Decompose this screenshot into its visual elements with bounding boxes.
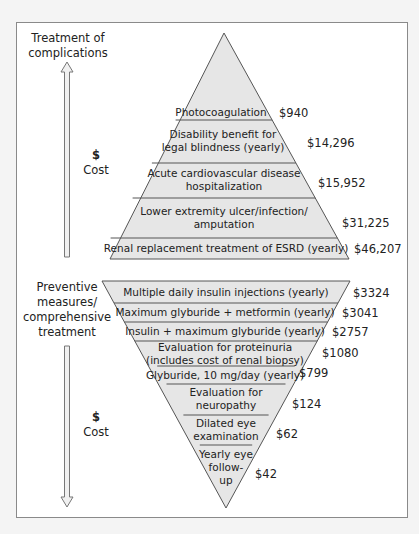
row-label-line: neuropathy [189, 399, 262, 412]
lower-row-1-cost: $3324 [353, 286, 390, 300]
row-label-line: hospitalization [147, 180, 300, 193]
lower-row-5-label: Glyburide, 10 mg/day (yearly) [146, 369, 304, 382]
row-label-line: Renal replacement treatment of ESRD (yea… [104, 242, 348, 255]
upper-row-2-label: Disability benefit for legal blindness (… [162, 128, 285, 154]
row-label-line: Acute cardiovascular disease [147, 167, 300, 180]
bottom-cost-axis-label: $ Cost [78, 410, 114, 440]
lower-row-7-label: Dilated eye examination [193, 417, 258, 443]
lower-row-6-label: Evaluation for neuropathy [189, 386, 262, 412]
upper-row-5-label: Renal replacement treatment of ESRD (yea… [104, 242, 348, 255]
row-label-line: Evaluation for [189, 386, 262, 399]
lower-row-2-label: Maximum glyburide + metformin (yearly) [116, 306, 335, 319]
bottom-heading-line3: comprehensive [20, 310, 114, 325]
up-arrow-icon [61, 62, 73, 257]
lower-row-5-cost: $799 [299, 366, 328, 380]
row-label-line: Yearly eye [199, 448, 253, 461]
row-label-line: Multiple daily insulin injections (yearl… [123, 286, 328, 299]
lower-row-3-label: Insulin + maximum glyburide (yearly) [125, 325, 325, 338]
row-label-line: Glyburide, 10 mg/day (yearly) [146, 369, 304, 382]
upper-row-1-label: Photocoagulation [175, 106, 266, 119]
upper-row-2-cost: $14,296 [307, 136, 355, 150]
dollar-symbol: $ [78, 410, 114, 425]
lower-row-2-cost: $3041 [342, 306, 379, 320]
row-label-line: up [199, 474, 253, 487]
row-label-line: examination [193, 430, 258, 443]
upper-row-3-cost: $15,952 [318, 176, 366, 190]
row-label-line: Photocoagulation [175, 106, 266, 119]
bottom-heading-line2: measures/ [20, 295, 114, 310]
upper-row-4-cost: $31,225 [342, 216, 390, 230]
bottom-heading: Preventive measures/ comprehensive treat… [20, 280, 114, 340]
cost-label: Cost [78, 163, 114, 178]
upper-row-4-label: Lower extremity ulcer/infection/ amputat… [140, 205, 308, 231]
lower-row-4-label: Evaluation for proteinuria (includes cos… [146, 341, 304, 367]
row-label-line: Lower extremity ulcer/infection/ [140, 205, 308, 218]
lower-row-4-cost: $1080 [322, 346, 359, 360]
lower-row-1-label: Multiple daily insulin injections (yearl… [123, 286, 328, 299]
bottom-heading-line1: Preventive [20, 280, 114, 295]
row-label-line: Disability benefit for [162, 128, 285, 141]
row-label-line: Insulin + maximum glyburide (yearly) [125, 325, 325, 338]
lower-row-3-cost: $2757 [332, 325, 369, 339]
row-label-line: follow- [199, 461, 253, 474]
top-heading-line2: complications [22, 46, 114, 61]
bottom-heading-line4: treatment [20, 325, 114, 340]
row-label-line: (includes cost of renal biopsy) [146, 354, 304, 367]
row-label-line: Dilated eye [193, 417, 258, 430]
down-arrow-icon [61, 346, 73, 507]
top-heading-line1: Treatment of [22, 31, 114, 46]
row-label-line: Maximum glyburide + metformin (yearly) [116, 306, 335, 319]
lower-row-8-cost: $42 [255, 467, 277, 481]
dollar-symbol: $ [78, 148, 114, 163]
upper-row-5-cost: $46,207 [354, 242, 402, 256]
top-cost-axis-label: $ Cost [78, 148, 114, 178]
upper-row-3-label: Acute cardiovascular disease hospitaliza… [147, 167, 300, 193]
lower-row-8-label: Yearly eye follow- up [199, 448, 253, 487]
row-label-line: Evaluation for proteinuria [146, 341, 304, 354]
row-label-line: legal blindness (yearly) [162, 141, 285, 154]
upper-row-1-cost: $940 [279, 106, 308, 120]
cost-label: Cost [78, 425, 114, 440]
top-heading: Treatment of complications [22, 31, 114, 61]
row-label-line: amputation [140, 218, 308, 231]
lower-row-6-cost: $124 [292, 397, 321, 411]
lower-row-7-cost: $62 [276, 427, 298, 441]
